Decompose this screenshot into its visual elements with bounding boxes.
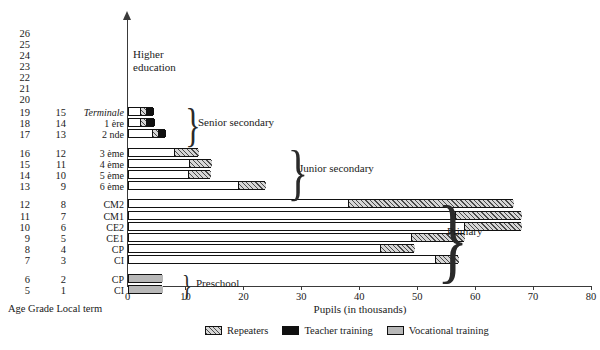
grade-value: 12 — [44, 148, 66, 159]
grade-row-label: 15114 ème — [0, 159, 126, 170]
stage-brace-primary: } — [437, 192, 469, 286]
x-tick-label: 80 — [576, 291, 600, 302]
x-tick — [591, 286, 592, 290]
stage-brace-preschool: } — [182, 271, 192, 300]
grade-value: 9 — [44, 181, 66, 192]
higher-education-label: Highereducation — [133, 48, 176, 74]
stage-label-senior-secondary: Senior secondary — [198, 116, 274, 128]
age-value: 22 — [0, 72, 30, 83]
legend-swatch-repeaters — [205, 326, 222, 335]
age-row: 25 — [0, 39, 130, 50]
local-term-value: CI — [68, 255, 124, 266]
age-value: 9 — [0, 233, 30, 244]
age-value: 20 — [0, 94, 30, 105]
bar-segment — [190, 160, 212, 167]
local-term-value: CE1 — [68, 233, 124, 244]
local-term-value: CP — [68, 244, 124, 255]
age-value: 12 — [0, 199, 30, 210]
age-row: 26 — [0, 28, 130, 39]
age-value: 8 — [0, 244, 30, 255]
local-term-value: 2 nde — [68, 129, 124, 140]
local-term-value: CE2 — [68, 222, 124, 233]
age-value: 17 — [0, 129, 30, 140]
bar-segment — [147, 108, 154, 115]
bar — [128, 181, 266, 190]
grade-row-label: 16123 ème — [0, 148, 126, 159]
bar-segment — [129, 200, 349, 207]
grade-row-label: 84CP — [0, 244, 126, 255]
bar-segment — [129, 119, 142, 126]
grade-value: 15 — [44, 107, 66, 118]
bar — [128, 170, 210, 179]
bar-segment — [381, 245, 416, 252]
local-term-value: CP — [68, 274, 124, 285]
grade-value: 10 — [44, 170, 66, 181]
legend-swatch-teacher-training — [282, 326, 299, 335]
grade-row-label: 117CM1 — [0, 211, 126, 222]
bar-segment — [129, 171, 190, 178]
bar — [128, 107, 153, 116]
bar — [128, 129, 166, 138]
bar-segment — [147, 119, 155, 126]
bar-segment — [349, 200, 514, 207]
grade-value: 6 — [44, 222, 66, 233]
bar-segment — [129, 160, 190, 167]
grade-value: 5 — [44, 233, 66, 244]
x-tick-label: 70 — [518, 291, 548, 302]
age-value: 24 — [0, 50, 30, 61]
grade-row-label: 73CI — [0, 255, 126, 266]
grade-row-label: 17132 nde — [0, 129, 126, 140]
age-value: 25 — [0, 39, 30, 50]
bar-segment — [129, 212, 456, 219]
local-term-value: Terminale — [68, 107, 124, 118]
grade-row-label: 1915Terminale — [0, 107, 126, 118]
age-value: 15 — [0, 159, 30, 170]
bar-segment — [129, 245, 381, 252]
bar — [128, 244, 415, 253]
bar — [128, 118, 154, 127]
bar-segment — [159, 130, 167, 137]
age-value: 14 — [0, 170, 30, 181]
grade-value: 14 — [44, 118, 66, 129]
x-tick-label: 20 — [228, 291, 258, 302]
grade-row-label: 95CE1 — [0, 233, 126, 244]
grade-value: 4 — [44, 244, 66, 255]
stage-label-primary: Primary — [447, 225, 482, 237]
local-term-value: CM2 — [68, 199, 124, 210]
legend-label-repeaters: Repeaters — [227, 325, 268, 336]
bar-segment — [129, 256, 436, 263]
bar-segment — [129, 182, 239, 189]
grade-row-label: 62CP — [0, 274, 126, 285]
x-tick — [475, 286, 476, 290]
local-term-value: 5 ème — [68, 170, 124, 181]
higher-education-label-line: Higher — [133, 48, 176, 61]
bar — [128, 233, 464, 242]
age-value: 6 — [0, 274, 30, 285]
local-term-value: 4 ème — [68, 159, 124, 170]
x-tick-label: 60 — [460, 291, 490, 302]
legend-item-vocational-training: Vocational training — [387, 325, 489, 336]
local-term-value: CM1 — [68, 211, 124, 222]
grade-row-label: 14105 ème — [0, 170, 126, 181]
stage-label-preschool: Preschool — [196, 277, 239, 289]
bar — [128, 285, 163, 294]
legend-swatch-vocational-training — [387, 326, 404, 335]
bar-segment — [129, 149, 175, 156]
age-value: 5 — [0, 285, 30, 296]
age-value: 23 — [0, 61, 30, 72]
bar — [128, 274, 163, 283]
x-tick — [533, 286, 534, 290]
local-term-value: 3 ème — [68, 148, 124, 159]
age-value: 21 — [0, 83, 30, 94]
education-bar-chart: 26252423222120 1915Terminale18141 ère171… — [0, 0, 600, 350]
age-value: 18 — [0, 118, 30, 129]
stage-label-junior-secondary: Junior secondary — [299, 162, 374, 174]
x-axis-title: Pupils (in thousands) — [200, 303, 520, 315]
age-value: 19 — [0, 107, 30, 118]
bar-segment — [129, 286, 164, 293]
grade-row-label: 1396 ème — [0, 181, 126, 192]
legend-label-teacher-training: Teacher training — [304, 325, 372, 336]
local-term-value: 1 ère — [68, 118, 124, 129]
bar-segment — [129, 223, 465, 230]
grade-value: 3 — [44, 255, 66, 266]
